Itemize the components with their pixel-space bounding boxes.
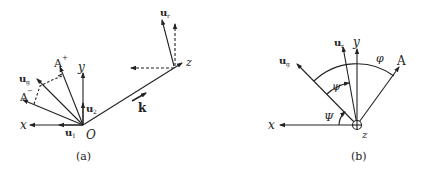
origin-label: O <box>86 128 96 142</box>
k-vector <box>132 93 146 101</box>
z-axis-a <box>83 63 182 125</box>
a-plus-superscript: + <box>62 54 68 62</box>
big-psi-label: Ψ <box>324 111 334 124</box>
ur-subscript-b: r <box>341 42 344 49</box>
x-label-b: x <box>268 118 275 132</box>
panel-a <box>23 20 182 125</box>
u1-subscript: 1 <box>72 132 76 139</box>
ug-vector-a <box>37 79 83 125</box>
phi-arc <box>314 64 394 81</box>
a-minus-superscript: − <box>27 87 33 95</box>
z-label-b: z <box>361 129 368 140</box>
z-label-a: z <box>185 56 192 69</box>
y-label-b: y <box>352 35 360 49</box>
caption-a: (a) <box>76 150 91 163</box>
ug-subscript-a: g <box>26 78 30 86</box>
y-label-a: y <box>77 60 85 74</box>
ur-vector-a <box>162 20 174 66</box>
big-psi-arc <box>339 112 345 125</box>
ur-subscript-a: r <box>167 12 170 19</box>
u2-subscript: 2 <box>93 108 97 115</box>
panel-b-labels: x y z u r u g A ψ φ Ψ (b) <box>268 35 406 163</box>
panel-a-labels: x y z O u 1 u 2 u r u g A + A − k (a) <box>19 7 192 163</box>
k-label: k <box>138 101 147 115</box>
phi-label: φ <box>376 52 384 65</box>
figure-canvas: x y z O u 1 u 2 u r u g A + A − k (a) <box>0 0 426 176</box>
x-label-a: x <box>20 118 27 132</box>
caption-b: (b) <box>351 150 367 163</box>
ug-subscript-b: g <box>286 60 290 68</box>
a-label-b: A <box>396 54 406 68</box>
psi-small-label: ψ <box>332 80 341 93</box>
